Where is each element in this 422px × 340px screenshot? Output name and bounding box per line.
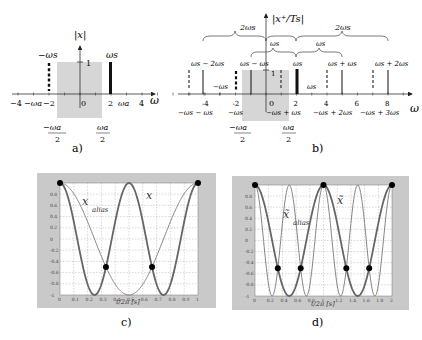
bottom-label-4: −ωs + 3ωs <box>360 109 400 117</box>
brace-top-left <box>203 31 266 41</box>
omega-a-label: ωa <box>118 99 130 108</box>
tick-label-2: 2 <box>108 99 113 108</box>
x-tick-label: 0.6 <box>294 298 301 303</box>
bottom-label-3: −ωs + 2ωs <box>313 109 353 117</box>
band-left-den: 2 <box>240 135 245 144</box>
curve-label-alias-sub: alias <box>92 206 109 214</box>
tick-label: -2 <box>233 100 240 108</box>
panel-label-b: b) <box>312 142 323 155</box>
y-tick-label: -0.2 <box>245 249 254 254</box>
band-left-num: −ωa <box>229 123 247 132</box>
panel-label-a: a) <box>72 142 83 155</box>
x-tick-label: 0.8 <box>168 297 175 302</box>
tick-label-neg2: −2 <box>43 99 55 108</box>
y-tick-label: 0.4 <box>50 214 57 219</box>
panel-a: 1 |x| −ωs ωs ω −4 −ωa −2 0 2 ωa 4 −ωa 2 … <box>10 29 220 155</box>
omega-s-label: ωs <box>106 50 118 60</box>
x-tick-label: 0.2 <box>86 297 93 302</box>
y-tick-label: -1 <box>50 293 55 298</box>
brace-mid-left-label: ωs <box>270 40 280 48</box>
inner-label-omega: ωs <box>307 83 317 91</box>
band-left-den: 2 <box>55 135 60 144</box>
sample-point <box>366 265 372 271</box>
x-tick-label: 2 <box>390 298 393 303</box>
x-tick-label: 1.2 <box>335 298 342 303</box>
panel-b: -4-224680 1 |x⁺/Ts| 2ωs 2ωs ωs ωs ωs − 2… <box>178 13 419 155</box>
curve-label-x-alias: x <box>82 195 89 208</box>
sample-point <box>389 182 395 188</box>
x-tick-label: 1.4 <box>349 298 356 303</box>
panel-c: -1-0.8-0.6-0.4-0.200.20.40.60.8 00.10.20… <box>37 173 216 329</box>
y-tick-label: 0.6 <box>50 203 57 208</box>
top-label-0: ωs − 2ωs <box>191 60 225 68</box>
passband-region <box>57 62 102 118</box>
y-tick-label: -0.4 <box>245 260 254 265</box>
curve-label-x: x <box>146 189 153 202</box>
brace-mid-right <box>296 48 342 57</box>
top-label-1: ωs − ωs <box>240 60 269 68</box>
y-tick-label: 0 <box>50 237 53 242</box>
top-label-4: ωs + 2ωs <box>375 60 409 68</box>
sample-point <box>321 182 327 188</box>
bottom-label-1: −ωs <box>228 109 244 117</box>
x-tick-label: 1.8 <box>376 298 383 303</box>
panel-label-d: d) <box>312 316 323 329</box>
one-tick-label: 1 <box>86 59 91 68</box>
x-axis-label: t/2π [s] <box>116 298 140 306</box>
tick-label: 6 <box>355 100 360 108</box>
brace-top-right-label: 2ωs <box>334 23 351 32</box>
sample-point <box>298 265 304 271</box>
x-tick-label: 1.6 <box>363 298 370 303</box>
one-tick-label: 1 <box>271 70 275 78</box>
x-tick-label: 0.6 <box>141 297 148 302</box>
x-tick-label: 0.1 <box>72 297 79 302</box>
sample-point <box>57 180 63 186</box>
x-tick-label: 1 <box>196 297 199 302</box>
y-tick-label: -0.2 <box>50 248 59 253</box>
inner-label-neg-omega: −ωs <box>213 83 229 91</box>
x-tick-label: 0.4 <box>280 298 287 303</box>
y-tick-label: -0.8 <box>50 281 59 286</box>
tick-label-neg4: −4 <box>10 99 22 108</box>
x-tick-label: 0.9 <box>182 297 189 302</box>
figure: 1 |x| −ωs ωs ω −4 −ωa −2 0 2 ωa 4 −ωa 2 … <box>0 0 422 340</box>
band-left-num: −ωa <box>43 123 61 132</box>
tick-label: 2 <box>294 100 298 108</box>
x-tick-label: 0.7 <box>155 297 162 302</box>
tick-label: 8 <box>385 100 389 108</box>
band-right-den: 2 <box>100 135 105 144</box>
brace-top-left-label: 2ωs <box>239 23 256 32</box>
neg-omega-a-label: −ωa <box>24 99 42 108</box>
x-axis-label: ω <box>410 102 419 115</box>
curve-label-alias-sub: alias <box>293 219 310 227</box>
x-tick-label: 0.3 <box>99 297 106 302</box>
y-axis-label: |x⁺/Ts| <box>272 13 304 25</box>
top-label-2: ωs <box>293 60 303 68</box>
x-ticks: -4-224680 <box>190 93 404 109</box>
y-tick-label: -0.6 <box>50 270 59 275</box>
top-label-3: ωs + ωs <box>328 60 357 68</box>
y-tick-label: -0.8 <box>245 282 254 287</box>
y-tick-label: 0.2 <box>50 225 57 230</box>
y-axis-label: |x| <box>74 29 86 41</box>
neg-omega-s-label: −ωs <box>38 50 58 60</box>
sample-point <box>103 264 109 270</box>
sample-point <box>343 265 349 271</box>
sample-point <box>149 264 155 270</box>
brace-mid-left <box>251 48 296 57</box>
brace-mid-right-label: ωs <box>316 40 326 48</box>
brace-top-right <box>296 31 388 41</box>
sample-point <box>275 265 281 271</box>
curve-label-x-tilde: x̃ <box>337 194 344 207</box>
x-axis-label: t/2π [s] <box>311 300 335 308</box>
x-tick-label: 0 <box>58 297 61 302</box>
curve-label-x-tilde-alias: x̃ <box>283 208 290 221</box>
y-tick-label: 0.8 <box>245 194 252 199</box>
bottom-label-2: −ωs + ωs <box>266 109 301 117</box>
panel-label-c: c) <box>121 316 131 329</box>
band-right-num: ωa <box>97 123 109 132</box>
tick-label-4: 4 <box>139 99 144 108</box>
band-right-den: 2 <box>286 135 291 144</box>
y-tick-label: 0.4 <box>245 216 252 221</box>
tick-label-0: 0 <box>81 99 86 108</box>
